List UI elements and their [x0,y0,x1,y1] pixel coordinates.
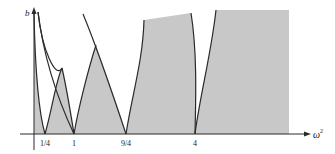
x-axis-label-sup: 2 [320,128,323,134]
y-axis-arrow-icon [32,7,37,14]
x-tick-label: 4 [193,139,197,148]
x-tick-label: 9/4 [121,139,131,148]
x-tick-label: 1 [72,139,76,148]
x-axis-label: ω2 [313,128,323,140]
stability-diagram: b ω2 1/4 1 9/4 4 [0,0,335,154]
region-beyond-four [195,10,289,134]
region-tongue-quarter [34,14,45,134]
y-axis-label: b [25,8,30,18]
curve-quarter-right [38,12,62,71]
shaded-regions [34,10,289,134]
x-tick-label: 1/4 [40,139,50,148]
x-axis-label-base: ω [313,129,320,140]
x-axis-arrow-icon [304,132,311,137]
region-ninequarter-to-four [126,13,196,134]
